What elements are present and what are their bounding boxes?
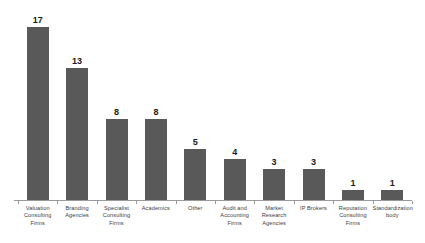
bar [224, 159, 246, 200]
category-label-line: Agencies [57, 212, 96, 219]
category-label-line: Valuation [18, 205, 57, 212]
axis-tick [294, 201, 295, 204]
axis-tick [18, 201, 19, 204]
axis-tick [57, 201, 58, 204]
bar-group: 8 [145, 0, 167, 200]
bar-group: 1 [381, 0, 403, 200]
bar-value-label: 13 [72, 56, 82, 66]
category-label-line: body [373, 212, 412, 219]
bar [184, 149, 206, 200]
category-label-line: Reputation [333, 205, 372, 212]
category-label-line: Firms [333, 220, 372, 227]
axis-tick [373, 201, 374, 204]
axis-tick [215, 201, 216, 204]
bar-value-label: 17 [33, 15, 43, 25]
category-label: Standardizationbody [373, 205, 412, 220]
bar-group: 8 [106, 0, 128, 200]
bar-value-label: 3 [272, 157, 277, 167]
bar [381, 190, 403, 200]
category-label: IP Brokers [294, 205, 333, 212]
bar [145, 119, 167, 200]
category-label: BrandingAgencies [57, 205, 96, 220]
bar-group: 4 [224, 0, 246, 200]
bar-value-label: 3 [311, 157, 316, 167]
bar-group: 5 [184, 0, 206, 200]
bar-value-label: 8 [153, 107, 158, 117]
axis-tick [176, 201, 177, 204]
category-label: MarketResearchAgencies [254, 205, 293, 227]
bar-value-label: 4 [232, 147, 237, 157]
axis-tick [412, 201, 413, 204]
category-labels-row: ValuationConsultingFirmsBrandingAgencies… [0, 205, 425, 239]
category-label: Academics [136, 205, 175, 212]
category-label-line: Consulting [18, 212, 57, 219]
category-label-line: Accounting [215, 212, 254, 219]
bar [66, 68, 88, 200]
category-label-line: Branding [57, 205, 96, 212]
bar-group: 1 [342, 0, 364, 200]
bar [27, 27, 49, 200]
category-label-line: Consulting [333, 212, 372, 219]
category-label-line: IP Brokers [294, 205, 333, 212]
axis-tick [254, 201, 255, 204]
bar [106, 119, 128, 200]
category-label-line: Audit and [215, 205, 254, 212]
axis-tick [136, 201, 137, 204]
bar-value-label: 8 [114, 107, 119, 117]
bar-group: 17 [27, 0, 49, 200]
bar [263, 169, 285, 200]
bar-value-label: 5 [193, 137, 198, 147]
bar-group: 3 [303, 0, 325, 200]
category-label: Other [176, 205, 215, 212]
category-label: Audit andAccountingFirms [215, 205, 254, 227]
bar-group: 3 [263, 0, 285, 200]
category-label-line: Firms [215, 220, 254, 227]
bar-group: 13 [66, 0, 88, 200]
category-label-line: Specialist [97, 205, 136, 212]
axis-tick [333, 201, 334, 204]
category-label-line: Research [254, 212, 293, 219]
category-label-line: Firms [97, 220, 136, 227]
category-label-line: Firms [18, 220, 57, 227]
bar-chart: 171388543311 ValuationConsultingFirmsBra… [0, 0, 425, 243]
plot-area: 171388543311 [0, 0, 425, 200]
category-label-line: Other [176, 205, 215, 212]
bar-value-label: 1 [350, 178, 355, 188]
category-label: ValuationConsultingFirms [18, 205, 57, 227]
category-label-line: Consulting [97, 212, 136, 219]
category-label: ReputationConsultingFirms [333, 205, 372, 227]
x-axis-line [14, 200, 412, 201]
category-label-line: Market [254, 205, 293, 212]
category-label: SpecialistConsultingFirms [97, 205, 136, 227]
bar [342, 190, 364, 200]
bar-value-label: 1 [390, 178, 395, 188]
category-label-line: Standardization [373, 205, 412, 212]
bar [303, 169, 325, 200]
axis-tick [97, 201, 98, 204]
category-label-line: Academics [136, 205, 175, 212]
category-label-line: Agencies [254, 220, 293, 227]
